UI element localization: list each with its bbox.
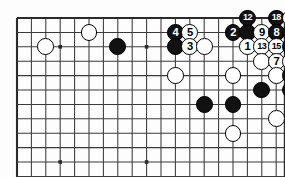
move-number-label: 12 <box>243 13 252 22</box>
stone-black <box>196 96 213 113</box>
stone-white <box>37 38 54 55</box>
stone-black <box>109 38 126 55</box>
move-number-label: 1 <box>245 41 251 52</box>
stone-black <box>253 82 270 99</box>
stone-black <box>282 82 285 99</box>
stone-white <box>268 110 285 127</box>
stone-black <box>225 96 242 113</box>
move-number-label: 2 <box>230 27 236 38</box>
move-stone-12-black: 12 <box>239 10 256 27</box>
go-board-diagram: 45321218171419981610112011315621722 <box>0 0 285 177</box>
move-stone-6-black: 6 <box>282 38 285 55</box>
move-number-label: 3 <box>187 41 193 52</box>
move-number-label: 5 <box>187 27 193 38</box>
stone-white <box>167 67 184 84</box>
move-number-label: 4 <box>173 27 179 38</box>
stone-layer: 45321218171419981610112011315621722 <box>0 0 285 177</box>
move-number-label: 9 <box>259 27 265 38</box>
move-number-label: 18 <box>272 13 281 22</box>
stone-white <box>225 125 242 142</box>
move-number-label: 8 <box>273 27 279 38</box>
stone-white <box>196 38 213 55</box>
move-number-label: 13 <box>257 42 266 51</box>
stone-white <box>81 24 98 41</box>
stone-white <box>225 67 242 84</box>
move-number-label: 15 <box>272 42 281 51</box>
move-number-label: 7 <box>273 56 279 67</box>
